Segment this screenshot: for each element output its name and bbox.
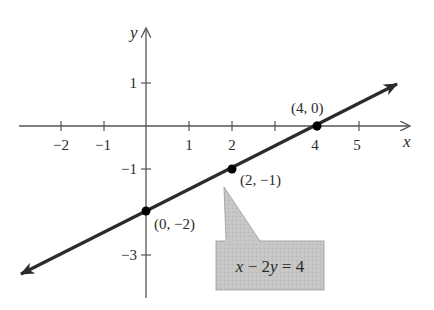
y-tick-label: −1 [121,161,137,177]
point-0-neg2 [142,207,151,216]
y-axis-label: y [128,23,138,42]
point-label-0-neg2: (0, −2) [154,216,195,233]
x-tick-label: 1 [185,137,193,153]
x-tick-label: −2 [53,137,69,153]
equation-label: x − 2y = 4 [235,257,305,276]
x-tick-label: 4 [311,137,319,153]
coordinate-plane: −2 −1 1 2 4 5 1 −1 −3 y x x − 2y = 4 (4,… [0,0,434,310]
x-tick-label: 5 [353,137,361,153]
equation-callout: x − 2y = 4 [216,187,324,290]
y-tick-label: 1 [130,75,138,91]
x-tick-label: 2 [228,137,236,153]
line-x-minus-2y-eq-4-left [21,211,146,274]
y-tick-label: −3 [121,247,137,263]
x-axis-label: x [402,132,411,151]
point-label-4-0: (4, 0) [291,100,324,117]
x-tick-label: −1 [95,137,111,153]
point-4-0 [313,122,322,131]
point-2-neg1 [228,165,237,174]
point-label-2-neg1: (2, −1) [240,172,281,189]
